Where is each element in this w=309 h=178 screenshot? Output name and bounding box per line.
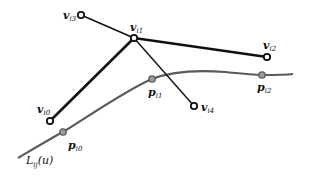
label-pi2: pi2 [257,81,272,95]
label-vi3: vi3 [63,9,77,23]
vertex-vi3 [78,12,84,18]
point-pi2 [259,72,265,78]
point-pi1 [149,76,155,82]
edge-vi1-vi2 [134,38,267,57]
vertex-vi0 [47,118,53,124]
label-pi1: pi1 [148,86,162,100]
label-vi0: vi0 [37,103,51,117]
vertex-vi2 [264,54,270,60]
diagram-canvas: vi3 vi1 vi2 vi0 vi4 pi0 pi1 pi2 Lij(u) [0,0,309,178]
vertex-vi4 [191,103,197,109]
label-vi1: vi1 [130,21,143,35]
curve-lij [18,71,293,158]
edge-vi1-vi0 [50,38,134,121]
label-pi0: pi0 [68,139,83,153]
point-pi0 [60,129,66,135]
vertex-vi1 [131,35,137,41]
label-vi4: vi4 [201,101,214,115]
label-vi2: vi2 [263,39,277,53]
edge-vi3-vi1 [81,15,134,38]
label-curve-lij: Lij(u) [25,154,53,169]
